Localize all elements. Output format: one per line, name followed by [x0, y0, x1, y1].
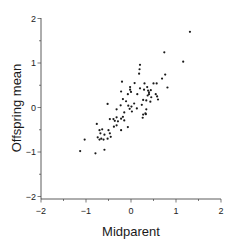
y-tick-label: 0 [31, 103, 36, 113]
data-point [109, 132, 111, 134]
data-point [98, 129, 100, 131]
data-point [145, 108, 147, 110]
data-point [99, 132, 101, 134]
y-axis: −2−1012 [26, 14, 41, 202]
x-axis-title: Midparent [102, 224, 160, 239]
data-point [79, 150, 81, 152]
data-point [131, 110, 133, 112]
data-point [147, 94, 149, 96]
data-point [157, 98, 159, 100]
data-point [182, 61, 184, 63]
data-point [127, 105, 129, 107]
data-point [130, 106, 132, 108]
scatter-chart: −2−1012 −2−1012 Midparent Offspring mean [0, 0, 236, 250]
y-tick-label: 2 [31, 14, 36, 24]
data-point [116, 124, 118, 126]
data-point [143, 89, 145, 91]
data-point [164, 73, 166, 75]
data-point [136, 107, 138, 109]
data-point [142, 114, 144, 116]
y-axis-title: Offspring mean [9, 64, 24, 153]
data-point [84, 138, 86, 140]
y-tick-label: −2 [26, 192, 36, 202]
data-point [110, 136, 112, 138]
data-point [122, 98, 124, 100]
data-point [121, 81, 123, 83]
data-point [148, 91, 150, 93]
data-point [125, 100, 127, 102]
data-point [109, 118, 111, 120]
data-point [155, 93, 157, 95]
data-point [136, 93, 138, 95]
data-point [122, 116, 124, 118]
data-point [96, 123, 98, 125]
x-tick-label: 0 [128, 206, 133, 216]
data-point [156, 82, 158, 84]
data-point [139, 64, 141, 66]
y-tick-label: −1 [26, 147, 36, 157]
data-point [116, 116, 118, 118]
data-point [123, 119, 125, 121]
x-tick-label: −2 [36, 206, 46, 216]
data-point [142, 117, 144, 119]
data-point [145, 99, 147, 101]
data-point [101, 128, 103, 130]
data-point [138, 68, 140, 70]
data-points [79, 31, 191, 155]
data-point [97, 136, 99, 138]
data-point [98, 138, 100, 140]
data-point [143, 82, 145, 84]
x-axis: −2−1012 [36, 199, 224, 216]
data-point [189, 31, 191, 33]
data-point [130, 91, 132, 93]
data-point [94, 152, 96, 154]
y-tick-label: 1 [31, 58, 36, 68]
data-point [116, 108, 118, 110]
data-point [156, 95, 158, 97]
data-point [114, 120, 116, 122]
data-point [138, 73, 140, 75]
data-point [142, 99, 144, 101]
data-point [139, 87, 141, 89]
data-point [146, 86, 148, 88]
x-tick-label: 1 [173, 206, 178, 216]
data-point [129, 86, 131, 88]
data-point [133, 102, 135, 104]
data-point [149, 101, 151, 103]
data-point [113, 126, 115, 128]
data-point [102, 138, 104, 140]
x-tick-label: 2 [218, 206, 223, 216]
data-point [117, 120, 119, 122]
data-point [103, 134, 105, 136]
data-point [129, 108, 131, 110]
data-point [107, 103, 109, 105]
data-point [129, 89, 131, 91]
data-point [161, 77, 163, 79]
data-point [120, 104, 122, 106]
data-point [120, 118, 122, 120]
data-point [123, 111, 125, 113]
data-point [163, 51, 165, 53]
data-point [150, 96, 152, 98]
data-point [127, 126, 129, 128]
data-point [107, 138, 109, 140]
data-point [112, 118, 114, 120]
data-point [134, 82, 136, 84]
data-point [120, 90, 122, 92]
x-tick-label: −1 [81, 206, 91, 216]
data-point [120, 129, 122, 131]
data-point [107, 129, 109, 131]
data-point [166, 86, 168, 88]
data-point [103, 149, 105, 151]
data-point [127, 93, 129, 95]
data-point [150, 89, 152, 91]
data-point [152, 82, 154, 84]
data-point [145, 113, 147, 115]
data-point [141, 104, 143, 106]
